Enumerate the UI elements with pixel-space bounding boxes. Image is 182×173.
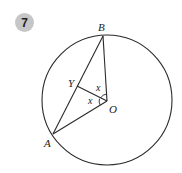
radius-ob xyxy=(103,36,107,101)
geometry-diagram: B A O Y x x xyxy=(0,0,182,173)
angle-label-yob: x xyxy=(95,82,101,93)
label-b: B xyxy=(98,21,105,33)
label-y: Y xyxy=(68,77,76,89)
angle-arc-yob xyxy=(101,94,107,98)
label-a: A xyxy=(43,137,51,149)
angle-label-yoa: x xyxy=(87,95,93,106)
angle-arc-yoa xyxy=(99,99,100,106)
label-o: O xyxy=(109,103,117,115)
